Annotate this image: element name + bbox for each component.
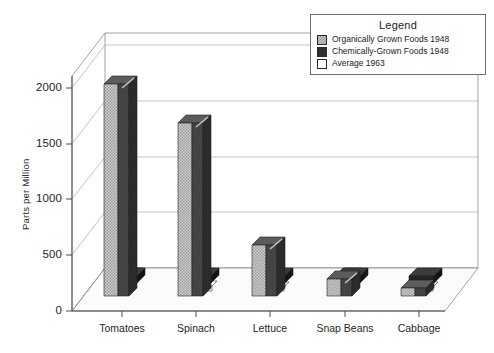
- bar-spinach-organically-grown-1948: [178, 115, 211, 296]
- x-tick-tomatoes: Tomatoes: [82, 322, 162, 334]
- legend-item-average-1963[interactable]: Average 1963: [317, 58, 481, 69]
- legend-label-organic: Organically Grown Foods 1948: [332, 34, 449, 45]
- bar-snap-beans-organically-grown-1948: [327, 271, 360, 296]
- legend-title: Legend: [315, 19, 481, 31]
- x-tick-spinach: Spinach: [156, 322, 236, 334]
- x-axis: [72, 311, 445, 317]
- plot-left-wall: [72, 33, 105, 311]
- y-axis: [66, 76, 72, 311]
- depth-gridlines: [72, 45, 105, 255]
- legend-item-organically-grown-foods-1948[interactable]: Organically Grown Foods 1948: [317, 34, 481, 45]
- x-tick-lettuce: Lettuce: [230, 322, 310, 334]
- y-axis-title: Parts per Million: [20, 158, 31, 230]
- y-tick-1500: 1500: [18, 137, 62, 149]
- legend: Legend Organically Grown Foods 1948 Chem…: [310, 14, 486, 75]
- chart-container: 2000 1500 1000 500 0 Parts per Million T…: [0, 0, 494, 353]
- bar-lettuce-organically-grown-1948: [252, 237, 285, 296]
- legend-label-chemical: Chemically-Grown Foods 1948: [332, 46, 449, 57]
- x-tick-cabbage: Cabbage: [379, 322, 459, 334]
- legend-swatch-organic-icon: [317, 35, 327, 45]
- legend-item-chemically-grown-foods-1948[interactable]: Chemically-Grown Foods 1948: [317, 46, 481, 57]
- y-tick-2000: 2000: [18, 81, 62, 93]
- y-tick-0: 0: [18, 304, 62, 316]
- legend-swatch-average-icon: [317, 59, 327, 69]
- legend-swatch-chemical-icon: [317, 47, 327, 57]
- x-tick-snap-beans: Snap Beans: [305, 322, 385, 334]
- legend-label-average: Average 1963: [332, 58, 385, 69]
- bar-tomatoes-organically-grown-1948: [104, 76, 137, 296]
- y-tick-500: 500: [18, 248, 62, 260]
